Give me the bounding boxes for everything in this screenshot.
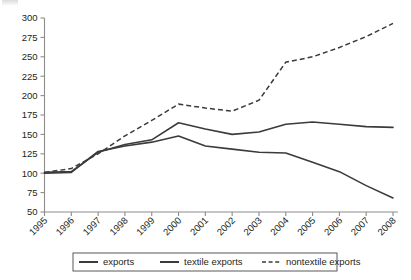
chart-canvas: 5075100125150175200225250275300 19951996… (0, 0, 411, 280)
x-tick-label: 2005 (295, 215, 318, 238)
y-tick-label: 250 (22, 51, 38, 62)
y-tick-label: 100 (22, 168, 38, 179)
x-tick-label: 1998 (107, 215, 130, 238)
scan-artifact (2, 0, 18, 6)
x-tick-label: 1996 (53, 215, 76, 238)
legend-label-exports: exports (103, 256, 134, 267)
x-axis (45, 212, 399, 216)
y-axis-tick-labels: 5075100125150175200225250275300 (22, 12, 38, 217)
x-tick-label: 1999 (134, 215, 157, 238)
x-tick-label: 1997 (80, 215, 103, 238)
x-tick-label: 1995 (27, 215, 50, 238)
y-tick-label: 275 (22, 32, 38, 43)
y-tick-label: 50 (27, 206, 38, 217)
y-tick-label: 175 (22, 109, 38, 120)
y-axis (41, 18, 45, 212)
y-tick-label: 225 (22, 71, 38, 82)
x-tick-label: 2000 (161, 215, 184, 238)
x-axis-tick-labels: 1995199619971998199920002001200220032004… (27, 215, 398, 238)
series-nontextile-exports (45, 23, 394, 172)
x-tick-label: 2008 (375, 215, 398, 238)
y-tick-label: 300 (22, 12, 38, 23)
x-tick-label: 2006 (322, 215, 345, 238)
y-tick-label: 150 (22, 129, 38, 140)
chart-legend: exportstextile exportsnontextile exports (73, 253, 361, 271)
y-tick-label: 125 (22, 148, 38, 159)
series-textile-exports (45, 136, 394, 198)
x-tick-label: 2001 (188, 215, 211, 238)
data-series-group (45, 23, 394, 198)
line-chart: 5075100125150175200225250275300 19951996… (0, 0, 411, 280)
y-tick-label: 75 (27, 187, 38, 198)
y-tick-label: 200 (22, 90, 38, 101)
x-tick-label: 2007 (348, 215, 371, 238)
x-tick-label: 2003 (241, 215, 264, 238)
x-tick-label: 2002 (214, 215, 237, 238)
legend-label-nontextile-exports: nontextile exports (286, 256, 361, 267)
x-tick-label: 2004 (268, 215, 291, 238)
legend-label-textile-exports: textile exports (184, 256, 243, 267)
